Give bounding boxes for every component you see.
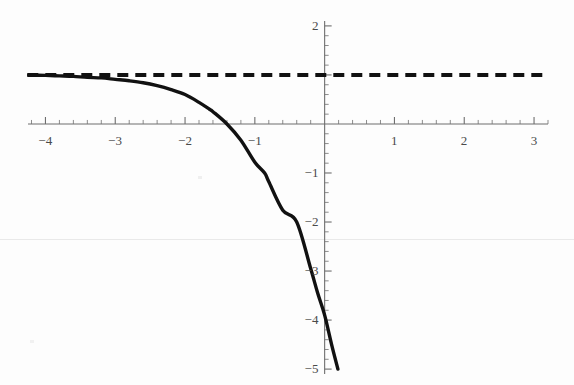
x-tick-label: 1 (391, 133, 398, 149)
x-tick-label: 2 (461, 133, 468, 149)
y-tick-label: 2 (299, 18, 319, 34)
y-tick-label: −3 (299, 263, 319, 279)
data-curve (29, 75, 338, 369)
x-tick-label: −1 (248, 133, 262, 149)
y-tick-label: −4 (299, 312, 319, 328)
x-tick-label: −4 (38, 133, 52, 149)
x-tick-label: 3 (531, 133, 538, 149)
plot-canvas (0, 0, 574, 385)
x-tick-label: −3 (108, 133, 122, 149)
x-tick-label: −2 (178, 133, 192, 149)
y-tick-label: −1 (299, 165, 319, 181)
y-tick-label: −5 (299, 361, 319, 377)
y-tick-label: −2 (299, 214, 319, 230)
chart-figure: −4−3−2−1123 2−1−2−3−4−5 (0, 0, 574, 385)
